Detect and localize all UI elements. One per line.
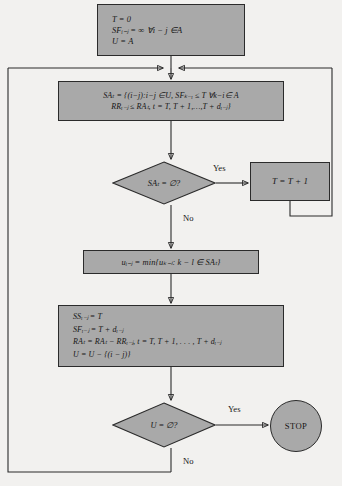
time-increment-label: T = T + 1 <box>272 176 308 187</box>
edge-label-no-unscheduled: No <box>183 456 194 466</box>
update-line-3: RAₜ = RAₜ − RRᵢ₋ⱼ, t = T, T + 1, . . . ,… <box>73 336 283 349</box>
update-box: SSᵢ₋ⱼ = T SFᵢ₋ⱼ = T + dᵢ₋ⱼ RAₜ = RAₜ − R… <box>58 305 284 367</box>
decision-unscheduled-empty-label: U = ∅? <box>112 402 216 448</box>
edge-label-yes-schedulable: Yes <box>213 163 226 173</box>
init-line-3: U = A <box>112 36 244 47</box>
min-activity-select-box: uᵢ₋ⱼ = min{uₖ₋ₗ: k − l ∈ SAₜ} <box>83 250 259 274</box>
schedulable-set-line-1: SAₜ = {(i−j):i−j ∈U, SFₖ₋ᵢ ≤ T ∀k−i∈ A <box>103 90 239 101</box>
decision-schedulable-empty: SAₜ = ∅? <box>112 161 216 205</box>
edge-label-no-schedulable: No <box>183 213 194 223</box>
update-line-1: SSᵢ₋ⱼ = T <box>73 311 283 324</box>
time-increment-box: T = T + 1 <box>250 162 330 201</box>
initialization-box: T = 0 SFᵢ₋ⱼ = ∞ ∀i − j ∈A U = A <box>97 4 245 56</box>
stop-terminator: STOP <box>270 400 322 452</box>
schedulable-set-box: SAₜ = {(i−j):i−j ∈U, SFₖ₋ᵢ ≤ T ∀k−i∈ A R… <box>58 81 284 121</box>
stop-label: STOP <box>285 421 307 431</box>
decision-unscheduled-empty: U = ∅? <box>112 402 216 448</box>
min-activity-select-label: uᵢ₋ⱼ = min{uₖ₋ₗ: k − l ∈ SAₜ} <box>122 257 221 268</box>
update-line-2: SFᵢ₋ⱼ = T + dᵢ₋ⱼ <box>73 324 283 337</box>
edge-label-yes-unscheduled: Yes <box>228 404 241 414</box>
schedulable-set-line-2: RRᵢ₋ⱼ ≤ RAₜ, t = T, T + 1,…,T + dᵢ₋ⱼ} <box>111 101 230 112</box>
decision-schedulable-empty-label: SAₜ = ∅? <box>112 161 216 205</box>
init-line-1: T = 0 <box>112 14 244 25</box>
update-line-4: U = U − {(i − j)} <box>73 349 283 362</box>
init-line-2: SFᵢ₋ⱼ = ∞ ∀i − j ∈A <box>112 25 244 36</box>
